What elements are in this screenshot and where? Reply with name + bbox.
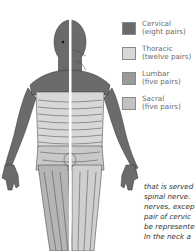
legend-item-sacral: Sacral (five pairs) [122, 95, 195, 120]
text-line: pair of cervic [144, 212, 195, 222]
dermatome-legend: Cervical (eight pairs) Thoracic (twelve … [122, 20, 195, 120]
legend-detail: (five pairs) [142, 78, 181, 86]
dermatome-figure [0, 0, 140, 251]
legend-detail: (eight pairs) [142, 28, 186, 36]
legend-item-lumbar: Lumbar (five pairs) [122, 70, 195, 95]
lumbar-swatch [122, 72, 136, 85]
cervical-swatch [122, 22, 136, 35]
legend-item-thoracic: Thoracic (twelve pairs) [122, 45, 195, 70]
human-body-illustration [0, 0, 140, 251]
text-line: In the neck a [144, 232, 195, 242]
legend-detail: (five pairs) [142, 103, 181, 111]
midline-divider [69, 18, 72, 251]
sacral-swatch [122, 97, 136, 110]
body-text: that is served spinal nerve. nerves, exc… [144, 182, 195, 242]
text-line: nerves, excep [144, 202, 195, 212]
thoracic-swatch [122, 47, 136, 60]
legend-item-cervical: Cervical (eight pairs) [122, 20, 195, 45]
text-line: be represente [144, 222, 195, 232]
legend-detail: (twelve pairs) [142, 53, 191, 61]
text-line: spinal nerve. [144, 192, 195, 202]
text-line: that is served [144, 182, 195, 192]
